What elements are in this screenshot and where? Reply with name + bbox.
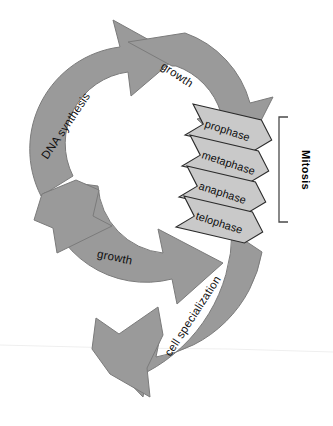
- cell-cycle-diagram: growth DNA synthesis growth cell special…: [0, 0, 333, 426]
- label-mitosis: Mitosis: [300, 150, 312, 190]
- diagram-canvas: growth DNA synthesis growth cell special…: [0, 0, 333, 426]
